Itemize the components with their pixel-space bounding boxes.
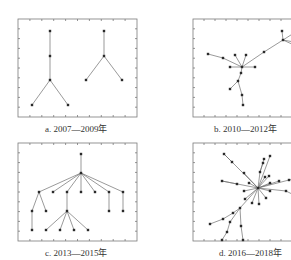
network-node	[231, 161, 233, 163]
network-node	[122, 210, 124, 212]
network-node	[269, 190, 271, 192]
network-edge	[283, 33, 291, 40]
network-edge	[86, 56, 104, 80]
network-node	[241, 94, 243, 96]
network-edge	[240, 208, 241, 226]
network-node	[288, 179, 290, 181]
network-node	[248, 182, 250, 184]
network-edge	[264, 40, 283, 52]
network-node	[52, 191, 54, 193]
network-node	[240, 72, 242, 74]
network-edge	[230, 208, 240, 222]
panel-a	[18, 19, 137, 117]
network-node	[234, 54, 236, 56]
network-node	[67, 104, 69, 106]
network-node	[66, 191, 68, 193]
network-edge	[260, 159, 264, 172]
network-node	[80, 191, 82, 193]
network-node	[239, 207, 241, 209]
network-node	[121, 79, 123, 81]
panel-frame	[18, 143, 137, 241]
network-node	[49, 79, 51, 81]
network-node	[269, 155, 271, 157]
network-node	[241, 66, 243, 68]
panel-frame	[18, 19, 137, 117]
network-node	[268, 175, 270, 177]
network-edge	[258, 188, 259, 204]
network-edge	[258, 188, 286, 191]
network-node	[263, 51, 265, 53]
network-node	[229, 221, 231, 223]
network-node	[85, 79, 87, 81]
network-node	[243, 172, 245, 174]
network-node	[237, 80, 239, 82]
network-edge	[242, 95, 243, 105]
network-node	[282, 39, 284, 41]
network-node	[232, 212, 234, 214]
network-node	[221, 180, 223, 182]
network-node	[258, 203, 260, 205]
panel-c	[18, 143, 137, 241]
network-edge	[81, 173, 123, 192]
network-node	[122, 191, 124, 193]
network-edge	[53, 173, 81, 192]
network-node	[236, 183, 238, 185]
network-node	[209, 223, 211, 225]
network-edge	[32, 80, 50, 105]
network-node	[59, 229, 61, 231]
network-edge	[240, 188, 258, 208]
network-node	[108, 210, 110, 212]
network-node	[223, 153, 225, 155]
network-edge	[81, 173, 109, 192]
network-node	[108, 191, 110, 193]
network-node	[251, 202, 253, 204]
network-edge	[227, 222, 230, 232]
network-edge	[222, 181, 237, 184]
network-node	[31, 229, 33, 231]
network-node	[229, 88, 231, 90]
network-edge	[238, 81, 242, 95]
network-edge	[32, 192, 39, 211]
network-node	[278, 180, 280, 182]
caption-d: d. 2016—2018年	[219, 246, 282, 259]
network-node	[259, 171, 261, 173]
network-node	[265, 197, 267, 199]
network-node	[31, 104, 33, 106]
network-node	[49, 30, 51, 32]
network-edge	[39, 192, 46, 211]
network-node	[103, 55, 105, 57]
network-node	[222, 57, 224, 59]
network-node	[45, 229, 47, 231]
network-node	[281, 30, 283, 32]
network-node	[245, 54, 247, 56]
caption-c: c. 2013—2015年	[45, 246, 108, 259]
network-node	[45, 210, 47, 212]
network-node	[49, 55, 51, 57]
network-edge	[241, 226, 243, 240]
network-node	[226, 231, 228, 233]
network-edge	[39, 173, 81, 192]
network-node	[222, 218, 224, 220]
network-node	[240, 225, 242, 227]
network-node	[243, 190, 245, 192]
network-node	[103, 30, 105, 32]
network-node	[73, 229, 75, 231]
network-node	[254, 66, 256, 68]
network-node	[285, 190, 287, 192]
network-edge	[208, 54, 223, 58]
network-node	[263, 158, 265, 160]
network-edge	[104, 56, 122, 80]
network-node	[207, 53, 209, 55]
network-node	[66, 210, 68, 212]
network-node	[221, 239, 223, 241]
network-node	[94, 191, 96, 193]
network-node	[257, 187, 259, 189]
network-node	[262, 162, 264, 164]
caption-b: b. 2010—2012年	[214, 122, 277, 135]
caption-a: a. 2007—2009年	[45, 122, 108, 135]
network-node	[38, 191, 40, 193]
network-edge	[223, 213, 233, 219]
network-edge	[50, 80, 68, 105]
panel-d	[193, 143, 291, 241]
network-node	[242, 239, 244, 241]
